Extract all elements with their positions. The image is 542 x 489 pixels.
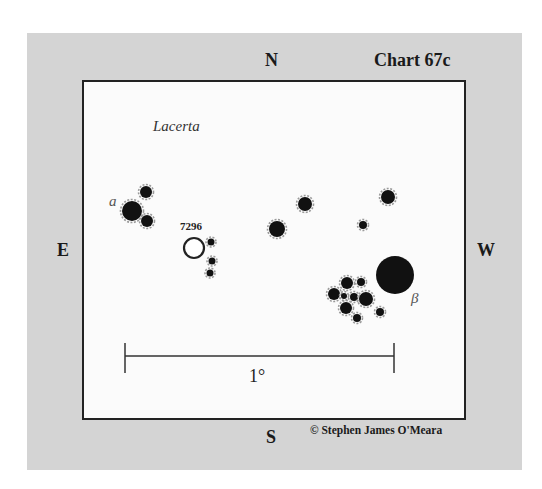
star [328, 288, 340, 300]
star [359, 221, 367, 229]
star [341, 293, 347, 299]
star [208, 239, 215, 246]
star [340, 302, 352, 314]
star [209, 258, 216, 265]
star [140, 186, 152, 198]
beta-star [376, 256, 414, 294]
star [381, 190, 395, 204]
star-map [0, 0, 542, 489]
open-cluster-marker [184, 238, 204, 258]
star [353, 314, 361, 322]
star [376, 308, 384, 316]
stars-group [121, 185, 416, 324]
star [269, 221, 285, 237]
star [341, 277, 353, 289]
star [207, 270, 214, 277]
alpha-star [122, 201, 142, 221]
scale-bar [125, 343, 394, 373]
star [357, 278, 365, 286]
star [359, 292, 373, 306]
star [141, 215, 153, 227]
star [298, 197, 312, 211]
